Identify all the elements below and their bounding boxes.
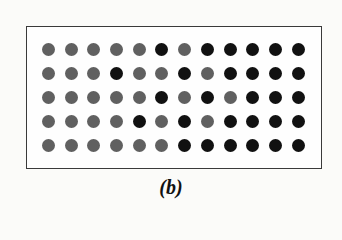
gray-dot	[65, 139, 78, 152]
gray-dot	[65, 67, 78, 80]
gray-dot	[87, 67, 100, 80]
gray-dot	[42, 115, 55, 128]
gray-dot	[87, 43, 100, 56]
black-dot	[246, 43, 259, 56]
black-dot	[269, 43, 282, 56]
black-dot	[110, 67, 123, 80]
gray-dot	[155, 115, 168, 128]
gray-dot	[42, 43, 55, 56]
black-dot	[269, 67, 282, 80]
black-dot	[133, 115, 146, 128]
gray-dot	[87, 91, 100, 104]
black-dot	[178, 115, 191, 128]
black-dot	[292, 67, 305, 80]
black-dot	[178, 67, 191, 80]
black-dot	[292, 115, 305, 128]
gray-dot	[87, 139, 100, 152]
gray-dot	[110, 115, 123, 128]
black-dot	[155, 43, 168, 56]
gray-dot	[42, 91, 55, 104]
black-dot	[201, 91, 214, 104]
gray-dot	[155, 139, 168, 152]
gray-dot	[155, 67, 168, 80]
black-dot	[269, 91, 282, 104]
gray-dot	[133, 43, 146, 56]
black-dot	[201, 139, 214, 152]
black-dot	[246, 91, 259, 104]
gray-dot	[201, 67, 214, 80]
gray-dot	[133, 91, 146, 104]
gray-dot	[42, 67, 55, 80]
gray-dot	[65, 115, 78, 128]
black-dot	[178, 139, 191, 152]
gray-dot	[178, 91, 191, 104]
black-dot	[246, 67, 259, 80]
gray-dot	[110, 43, 123, 56]
black-dot	[292, 91, 305, 104]
gray-dot	[87, 115, 100, 128]
black-dot	[292, 43, 305, 56]
gray-dot	[110, 139, 123, 152]
black-dot	[292, 139, 305, 152]
gray-dot	[65, 91, 78, 104]
black-dot	[246, 115, 259, 128]
gray-dot	[224, 91, 237, 104]
black-dot	[201, 43, 214, 56]
figure-caption: (b)	[0, 176, 342, 199]
black-dot	[246, 139, 259, 152]
black-dot	[224, 67, 237, 80]
gray-dot	[42, 139, 55, 152]
gray-dot	[178, 43, 191, 56]
gray-dot	[65, 43, 78, 56]
dot-grid-frame	[26, 26, 322, 169]
gray-dot	[133, 67, 146, 80]
gray-dot	[133, 139, 146, 152]
black-dot	[224, 43, 237, 56]
black-dot	[269, 115, 282, 128]
black-dot	[224, 115, 237, 128]
black-dot	[155, 91, 168, 104]
gray-dot	[201, 115, 214, 128]
gray-dot	[110, 91, 123, 104]
black-dot	[224, 139, 237, 152]
black-dot	[269, 139, 282, 152]
dot-grid	[42, 43, 314, 163]
